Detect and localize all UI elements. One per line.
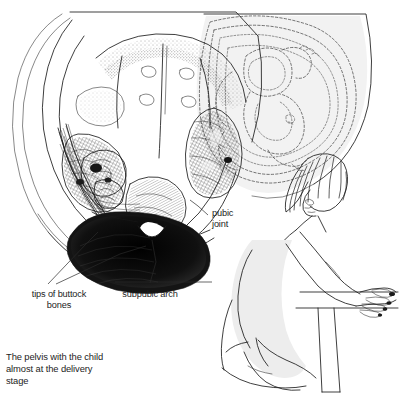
figure-caption: The pelvis with the child almost at the …: [6, 351, 103, 386]
label-pubic-joint: pubic joint: [211, 208, 234, 229]
label-subpubic-arch-line1: subpubic arch: [122, 289, 177, 299]
pubic-bones-and-subpubic-arch: [67, 212, 214, 294]
pregnant-belly: [231, 240, 306, 378]
pelvis-illustration-canvas: pubic joint tips of buttock bones subpub…: [0, 0, 404, 405]
label-tips-of-buttock-bones-line1: tips of buttock: [32, 289, 87, 299]
caption-line-3: stage: [6, 375, 28, 386]
label-tips-of-buttock-bones-line2: bones: [47, 300, 72, 310]
face-profile: [303, 190, 316, 216]
arm: [286, 232, 360, 306]
anatomical-figure: pubic joint tips of buttock bones subpub…: [0, 0, 404, 405]
label-pubic-joint-line1: pubic: [212, 208, 234, 218]
caption-line-1: The pelvis with the child: [6, 351, 103, 362]
label-pubic-joint-line2: joint: [211, 219, 229, 229]
label-tips-of-buttock-bones: tips of buttock bones: [32, 289, 87, 310]
caption-line-2: almost at the delivery: [6, 363, 93, 374]
support-bar: [296, 292, 398, 392]
label-subpubic-arch: subpubic arch: [122, 289, 177, 299]
